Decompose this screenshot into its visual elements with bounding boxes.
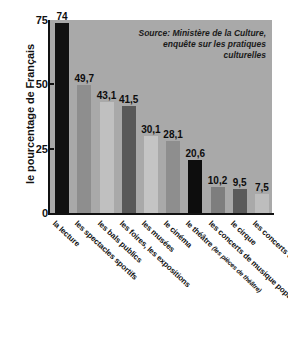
bar-chart: le pourcentage de Français 0255075 Sourc… (0, 0, 288, 343)
bar: 30,1 (144, 136, 158, 213)
y-tick-mark (48, 83, 54, 85)
bar-value-label: 7,5 (255, 182, 269, 193)
bar-value-label: 43,1 (97, 90, 116, 101)
bar-value-label: 74 (57, 11, 68, 22)
source-note-line2: enquête sur les pratiques culturelles (126, 39, 266, 61)
bar: 41,5 (122, 106, 136, 213)
bar: 43,1 (100, 102, 114, 213)
y-tick-label: 75 (24, 15, 48, 25)
bar-value-label: 10,2 (208, 175, 227, 186)
bar: 74 (55, 23, 69, 213)
bar: 9,5 (233, 189, 247, 213)
x-axis-category-labels: la lectureles spectacles sportifsles bal… (0, 213, 288, 343)
bar-value-label: 30,1 (141, 124, 160, 135)
y-tick-mark (48, 148, 54, 150)
bar: 10,2 (211, 187, 225, 213)
y-tick-label: 50 (24, 79, 48, 89)
bar: 49,7 (77, 85, 91, 213)
bar-value-label: 49,7 (75, 73, 94, 84)
bar-value-label: 20,6 (186, 148, 205, 159)
bar: 7,5 (255, 194, 269, 213)
y-tick-label: 25 (24, 144, 48, 154)
bar-value-label: 28,1 (163, 129, 182, 140)
source-note-line1: Source: Ministère de la Culture, (126, 28, 266, 39)
bar-value-label: 9,5 (233, 177, 247, 188)
source-note: Source: Ministère de la Culture, enquête… (126, 28, 266, 61)
bar: 20,6 (188, 160, 202, 213)
bar-value-label: 41,5 (119, 94, 138, 105)
bar: 28,1 (166, 141, 180, 213)
plot-area: Source: Ministère de la Culture, enquête… (50, 20, 272, 213)
